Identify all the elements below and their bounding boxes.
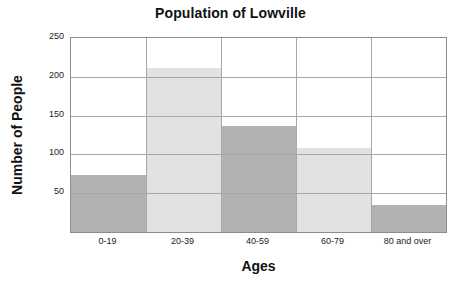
y-tick-label: 150 — [30, 110, 64, 119]
x-axis-title: Ages — [70, 258, 447, 275]
y-axis-tick-labels: 50100150200250 — [30, 0, 68, 288]
x-tick-label: 60-79 — [295, 235, 370, 247]
bar-80-and-over — [371, 205, 446, 232]
bar-20-39 — [146, 68, 221, 232]
y-axis-title: Number of People — [9, 75, 25, 195]
y-tick-label: 50 — [30, 187, 64, 196]
gridline-horizontal — [71, 116, 446, 117]
gridline-vertical — [371, 38, 372, 232]
population-bar-chart: Population of Lowville Number of People … — [0, 0, 461, 288]
gridline-horizontal — [71, 154, 446, 155]
y-tick-label: 250 — [30, 32, 64, 41]
plot-inner — [71, 38, 446, 232]
y-tick-label: 100 — [30, 148, 64, 157]
x-tick-label: 20-39 — [145, 235, 220, 247]
bar-40-59 — [221, 126, 296, 232]
x-tick-label: 40-59 — [220, 235, 295, 247]
bar-60-79 — [296, 148, 371, 232]
gridline-horizontal — [71, 77, 446, 78]
y-axis-title-container: Number of People — [6, 37, 28, 233]
chart-title: Population of Lowville — [0, 5, 461, 22]
x-axis-tick-labels: 0-1920-3940-5960-7980 and over — [70, 235, 447, 251]
gridline-horizontal — [71, 193, 446, 194]
x-tick-label: 0-19 — [70, 235, 145, 247]
gridline-vertical — [296, 38, 297, 232]
x-tick-label: 80 and over — [370, 235, 445, 247]
gridline-vertical — [146, 38, 147, 232]
y-tick-label: 200 — [30, 71, 64, 80]
gridline-vertical — [221, 38, 222, 232]
bar-0-19 — [71, 175, 146, 232]
plot-area — [70, 37, 447, 233]
